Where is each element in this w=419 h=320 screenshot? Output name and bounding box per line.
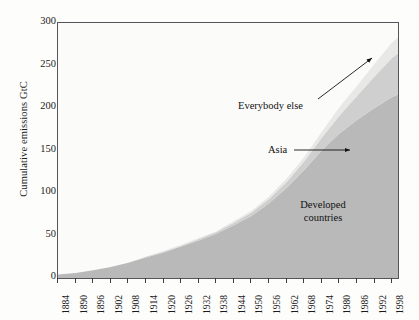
- x-tick-label: 1956: [272, 295, 282, 314]
- y-tick-label: 0: [14, 270, 56, 281]
- annotation-developed-countries: Developed countries: [288, 198, 358, 224]
- x-tick-mark: [374, 278, 375, 283]
- x-tick-label: 1914: [149, 295, 159, 314]
- x-tick-mark: [127, 278, 128, 283]
- x-tick-mark: [198, 278, 199, 283]
- annotation-everybody-else: Everybody else: [238, 100, 303, 111]
- x-tick-label: 1986: [360, 295, 370, 314]
- y-tick-label: 50: [14, 228, 56, 239]
- x-tick-mark: [163, 278, 164, 283]
- x-tick-label: 1908: [131, 295, 141, 314]
- x-tick-label: 1896: [96, 295, 106, 314]
- x-tick-mark: [180, 278, 181, 283]
- x-tick-mark: [391, 278, 392, 283]
- x-tick-mark: [110, 278, 111, 283]
- x-tick-label: 1974: [325, 295, 335, 314]
- x-tick-label: 1992: [378, 295, 388, 314]
- x-tick-mark: [215, 278, 216, 283]
- x-tick-label: 1890: [79, 295, 89, 314]
- annotation-asia: Asia: [268, 144, 287, 155]
- x-tick-mark: [92, 278, 93, 283]
- x-tick-mark: [338, 278, 339, 283]
- x-tick-label: 1980: [342, 295, 352, 314]
- x-tick-label: 1950: [254, 295, 264, 314]
- annotation-developed-line1: Developed: [288, 198, 358, 211]
- y-tick-label: 300: [14, 15, 56, 26]
- x-tick-mark: [75, 278, 76, 283]
- x-tick-mark: [356, 278, 357, 283]
- y-tick-label: 150: [14, 143, 56, 154]
- x-tick-label: 1938: [219, 295, 229, 314]
- y-tick-label: 100: [14, 185, 56, 196]
- x-tick-label: 1902: [114, 295, 124, 314]
- x-tick-label: 1926: [184, 295, 194, 314]
- x-tick-mark: [233, 278, 234, 283]
- x-tick-label: 1920: [167, 295, 177, 314]
- x-tick-mark: [303, 278, 304, 283]
- plot-area: [57, 22, 399, 279]
- cumulative-emissions-chart: Cumulative emissions GtC 300250200150100…: [0, 0, 419, 320]
- x-tick-label: 1962: [290, 295, 300, 314]
- x-tick-label: 1968: [307, 295, 317, 314]
- x-tick-mark: [57, 278, 58, 283]
- x-tick-mark: [286, 278, 287, 283]
- x-tick-label: 1884: [61, 295, 71, 314]
- x-tick-mark: [268, 278, 269, 283]
- x-tick-mark: [321, 278, 322, 283]
- x-tick-label: 1932: [202, 295, 212, 314]
- y-tick-label: 200: [14, 100, 56, 111]
- x-tick-mark: [145, 278, 146, 283]
- x-tick-label: 1998: [395, 295, 405, 314]
- stacked-area-series: [58, 23, 398, 278]
- x-tick-label: 1944: [237, 295, 247, 314]
- x-tick-mark: [250, 278, 251, 283]
- y-tick-label: 250: [14, 58, 56, 69]
- annotation-developed-line2: countries: [288, 211, 358, 224]
